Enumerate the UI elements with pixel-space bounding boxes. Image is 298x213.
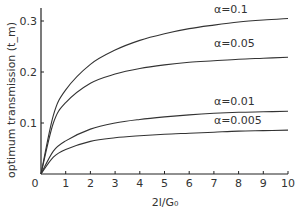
x-tick-label: 0 (32, 177, 39, 190)
series-label: α=0.05 (214, 37, 255, 50)
series-curve (41, 130, 288, 174)
series-label: α=0.01 (214, 95, 255, 108)
x-tick-label: 9 (260, 177, 267, 190)
x-tick-label: 2 (87, 177, 94, 190)
x-tick-label: 10 (281, 177, 295, 190)
y-tick-label: 0.2 (20, 66, 38, 79)
chart: 0123456789100.10.20.3 α=0.1α=0.05α=0.01α… (0, 0, 298, 213)
x-tick-label: 6 (186, 177, 193, 190)
x-tick-label: 3 (112, 177, 119, 190)
x-tick-label: 8 (235, 177, 242, 190)
x-tick-label: 1 (62, 177, 69, 190)
x-axis-label: 2l/G₀ (152, 196, 179, 209)
y-tick-label: 0.3 (20, 15, 38, 28)
x-tick-label: 4 (136, 177, 143, 190)
x-tick-label: 5 (161, 177, 168, 190)
y-tick-label: 0.1 (20, 117, 38, 130)
y-axis-label: optimum transmission (t_m) (5, 22, 18, 178)
x-tick-label: 7 (210, 177, 217, 190)
series-label: α=0.005 (214, 114, 262, 127)
series-label: α=0.1 (214, 3, 248, 16)
